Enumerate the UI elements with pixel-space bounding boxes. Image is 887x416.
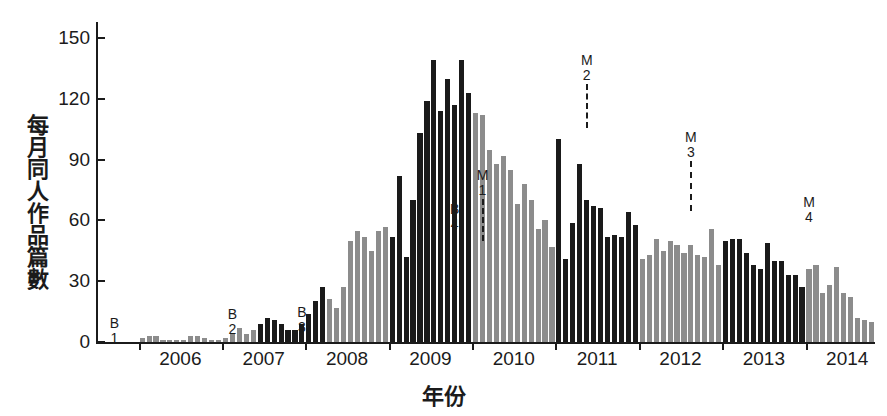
annotation-m4: M4 — [796, 195, 822, 224]
chart-root: 每月同人作品篇數 0306090120150 20062007200820092… — [0, 0, 887, 416]
annotation-number: 3 — [289, 320, 315, 334]
annotation-m3: M3 — [678, 130, 704, 211]
annotation-dashed-line — [690, 161, 692, 211]
annotation-letter: M — [678, 130, 704, 144]
annotation-dashed-line — [586, 84, 588, 128]
annotations-layer: B1B2B3B4M1M2M3M4M5 — [0, 0, 887, 416]
annotation-letter: M — [574, 53, 600, 67]
annotation-b2: B2 — [219, 307, 245, 336]
annotation-letter: M — [470, 168, 496, 182]
annotation-m1: M1 — [470, 168, 496, 241]
annotation-b4: B4 — [442, 202, 468, 231]
annotation-letter: B — [289, 305, 315, 319]
annotation-m2: M2 — [574, 53, 600, 128]
annotation-number: 3 — [678, 145, 704, 159]
annotation-number: 4 — [796, 210, 822, 224]
annotation-letter: B — [101, 316, 127, 330]
annotation-letter: B — [442, 202, 468, 216]
annotation-number: 4 — [442, 217, 468, 231]
annotation-dashed-line — [482, 199, 484, 241]
annotation-b3: B3 — [289, 305, 315, 334]
annotation-b1: B1 — [101, 316, 127, 345]
annotation-number: 1 — [101, 331, 127, 345]
annotation-letter: M — [796, 195, 822, 209]
annotation-number: 1 — [470, 183, 496, 197]
x-axis-title: 年份 — [0, 378, 887, 410]
annotation-letter: B — [219, 307, 245, 321]
annotation-number: 2 — [219, 322, 245, 336]
annotation-number: 2 — [574, 68, 600, 82]
